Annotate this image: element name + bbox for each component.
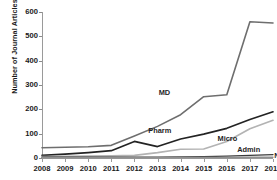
plot-area [0,0,277,180]
series-group [42,22,273,158]
line-chart: Number of Journal Articles 0100200300400… [0,0,277,180]
series-label-micro: Micro [218,135,238,142]
series-label-admin: Admin [237,146,260,153]
series-label-nurse: Nurse [274,152,277,159]
series-label-pharm: Pharm [148,127,171,134]
series-label-md: MD [159,89,171,96]
